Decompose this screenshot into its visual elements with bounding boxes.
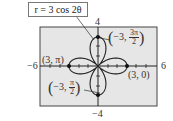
point-label-3-0: (3, 0): [128, 70, 150, 80]
equation-label: r = 3 cos 2θ: [28, 2, 88, 17]
y-min-label: −4: [92, 109, 103, 119]
x-max-label: 6: [161, 61, 166, 71]
x-min-label: −6: [27, 61, 38, 71]
polar-rose-plot: [0, 0, 173, 121]
point-label-neg3-3pi-over-2: (−3, 3π2): [108, 29, 144, 46]
y-max-label: 4: [95, 17, 100, 27]
point-label-3-pi: (3, π): [42, 55, 64, 65]
point-label-neg3-pi-over-2: (−3, π2): [48, 79, 80, 96]
